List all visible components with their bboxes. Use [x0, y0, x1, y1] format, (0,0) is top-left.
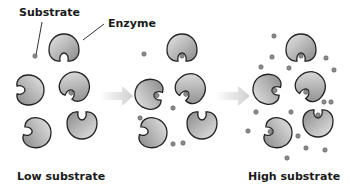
- substrate-molecule: [180, 54, 184, 58]
- high-substrate-label: High substrate: [248, 170, 340, 183]
- enzyme-substrate-diagram: [0, 0, 350, 190]
- enzyme: [137, 116, 169, 150]
- enzyme-label: Enzyme: [108, 17, 156, 30]
- substrate-molecule: [181, 141, 185, 145]
- substrate-molecule: [33, 54, 37, 58]
- enzyme: [17, 75, 44, 105]
- enzyme: [187, 112, 217, 139]
- substrate-molecule: [171, 106, 175, 110]
- enzyme-bound: [171, 68, 211, 108]
- substrate-molecule: [171, 142, 175, 146]
- panel-low-substrate: [17, 34, 97, 150]
- enzyme: [67, 112, 97, 139]
- substrate-label: Substrate: [19, 6, 80, 19]
- panel-high-substrate: [246, 34, 336, 160]
- enzyme-bound: [262, 116, 294, 150]
- enzyme-bound: [251, 72, 283, 106]
- substrate-pointer-line: [36, 22, 42, 55]
- enzyme: [21, 116, 53, 150]
- enzyme-bound: [167, 34, 197, 61]
- substrate-molecule: [138, 116, 142, 120]
- enzyme-bound: [286, 34, 316, 61]
- enzyme-pointer-line: [83, 24, 104, 40]
- enzyme: [49, 34, 79, 61]
- low-substrate-label: Low substrate: [17, 170, 105, 183]
- panel-medium-substrate: [133, 34, 217, 150]
- arrow-right-icon: [99, 86, 133, 106]
- enzyme-bound: [133, 77, 165, 111]
- enzyme-bound: [303, 110, 333, 137]
- arrow-right-icon: [215, 86, 250, 106]
- substrate-molecule: [142, 52, 146, 56]
- enzyme-bound: [291, 66, 331, 106]
- enzyme-bound: [55, 66, 95, 104]
